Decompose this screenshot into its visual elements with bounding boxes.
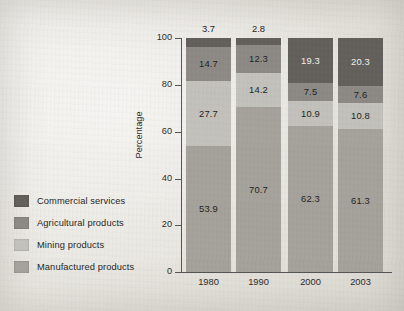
x-axis-tick-label: 2003 <box>338 277 383 287</box>
segment-value-label: 19.3 <box>301 56 320 65</box>
legend-label: Commercial services <box>37 196 125 206</box>
segment-manufactured-products[interactable]: 53.9 <box>186 146 231 272</box>
legend-item-agricultural-products: Agricultural products <box>14 212 164 233</box>
x-axis-line <box>181 272 392 273</box>
segment-commercial-services[interactable] <box>186 38 231 47</box>
segment-commercial-services[interactable]: 19.3 <box>288 38 333 83</box>
legend-swatch-icon <box>14 261 29 273</box>
bar-1990[interactable]: 2.8 12.3 14.2 70.7 <box>236 38 281 272</box>
segment-value-label: 2.8 <box>236 23 281 34</box>
legend-label: Agricultural products <box>37 218 124 228</box>
segment-value-label: 12.3 <box>249 54 268 63</box>
bar-1980[interactable]: 3.7 14.7 27.7 53.9 <box>186 38 231 272</box>
segment-agricultural-products[interactable]: 14.7 <box>186 47 231 81</box>
legend-swatch-icon <box>14 217 29 229</box>
segment-value-label: 27.7 <box>199 109 218 118</box>
legend-label: Mining products <box>37 240 104 250</box>
x-axis-tick-label: 2000 <box>288 277 333 287</box>
segment-value-label: 70.7 <box>249 185 268 194</box>
legend-item-manufactured-products: Manufactured products <box>14 256 164 277</box>
segment-mining-products[interactable]: 14.2 <box>236 73 281 106</box>
segment-value-label: 3.7 <box>186 23 231 34</box>
segment-value-label: 10.8 <box>351 111 370 120</box>
legend-item-mining-products: Mining products <box>14 234 164 255</box>
segment-commercial-services[interactable]: 20.3 <box>338 38 383 86</box>
segment-value-label: 62.3 <box>301 194 320 203</box>
segment-mining-products[interactable]: 10.9 <box>288 101 333 127</box>
segment-value-label: 61.3 <box>351 196 370 205</box>
plot-area: 3.7 14.7 27.7 53.9 2.8 12.3 <box>181 38 392 272</box>
segment-value-label: 7.5 <box>304 87 318 96</box>
segment-agricultural-products[interactable]: 12.3 <box>236 45 281 74</box>
x-axis-tick-label: 1980 <box>186 277 231 287</box>
legend-swatch-icon <box>14 195 29 207</box>
legend-label: Manufactured products <box>37 262 134 272</box>
segment-agricultural-products[interactable]: 7.5 <box>288 83 333 101</box>
legend-item-commercial-services: Commercial services <box>14 190 164 211</box>
segment-mining-products[interactable]: 10.8 <box>338 103 383 128</box>
segment-value-label: 53.9 <box>199 204 218 213</box>
bar-2000[interactable]: 19.3 7.5 10.9 62.3 <box>288 38 333 272</box>
segment-value-label: 14.7 <box>199 59 218 68</box>
y-axis-tick-label: 100 <box>146 32 172 42</box>
segment-manufactured-products[interactable]: 70.7 <box>236 107 281 272</box>
bar-2003[interactable]: 20.3 7.6 10.8 61.3 <box>338 38 383 272</box>
segment-manufactured-products[interactable]: 62.3 <box>288 126 333 272</box>
y-axis-title: Percentage <box>134 112 144 159</box>
page-canvas: Commercial services Agricultural product… <box>0 0 404 311</box>
segment-value-label: 7.6 <box>354 90 368 99</box>
segment-value-label: 14.2 <box>249 85 268 94</box>
y-axis-tick-label: 80 <box>146 79 172 89</box>
x-axis-tick-label: 1990 <box>236 277 281 287</box>
segment-value-label: 10.9 <box>301 109 320 118</box>
chart-legend: Commercial services Agricultural product… <box>14 190 164 278</box>
y-axis-tick-label: 60 <box>146 126 172 136</box>
segment-commercial-services[interactable] <box>236 38 281 45</box>
segment-mining-products[interactable]: 27.7 <box>186 81 231 146</box>
legend-swatch-icon <box>14 239 29 251</box>
y-axis-tick-label: 40 <box>146 173 172 183</box>
segment-value-label: 20.3 <box>351 57 370 66</box>
y-axis-tick <box>175 272 181 273</box>
segment-agricultural-products[interactable]: 7.6 <box>338 86 383 104</box>
segment-manufactured-products[interactable]: 61.3 <box>338 129 383 272</box>
